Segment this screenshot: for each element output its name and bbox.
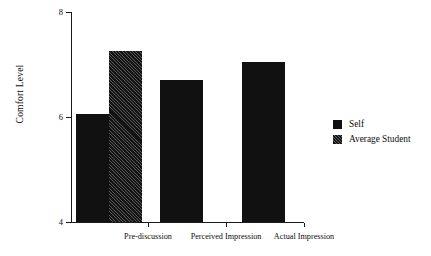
bar-chart-figure: Comfort Level 8 6 4 Pre-discussion Perce… <box>0 0 431 256</box>
legend-swatch-self <box>333 120 342 129</box>
legend-item-average-student: Average Student <box>333 132 411 147</box>
y-axis-title: Comfort Level <box>15 49 25 139</box>
x-axis-label-perceived-impression: Perceived Impression <box>191 231 262 242</box>
x-tick-perceived-impression <box>226 223 227 227</box>
bar-actual-impression-self <box>242 62 285 222</box>
x-tick-actual-impression <box>304 223 305 227</box>
y-tick-label-6: 6 <box>59 112 63 122</box>
legend-label-average-student: Average Student <box>349 134 411 145</box>
y-tick-4: 4 <box>66 222 71 223</box>
plot-area <box>71 12 304 222</box>
x-axis-label-actual-impression: Actual Impression <box>274 231 334 242</box>
bar-perceived-impression-self <box>160 80 203 222</box>
x-tick-pre-discussion <box>148 223 149 227</box>
y-tick-label-4: 4 <box>59 217 63 227</box>
legend-swatch-average-student <box>333 135 342 144</box>
chart-legend: Self Average Student <box>333 117 411 147</box>
bar-pre-discussion-average-student <box>109 51 142 222</box>
legend-label-self: Self <box>349 119 364 130</box>
legend-item-self: Self <box>333 117 411 132</box>
x-axis-label-pre-discussion: Pre-discussion <box>124 231 172 242</box>
x-axis-line <box>71 222 304 223</box>
y-tick-label-8: 8 <box>59 7 63 17</box>
bar-pre-discussion-self <box>76 114 109 222</box>
